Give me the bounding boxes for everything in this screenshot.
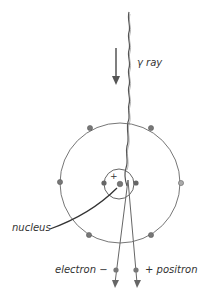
nucleus-label: nucleus (12, 222, 51, 233)
positron-arrowhead-icon (134, 280, 141, 288)
nucleus-pointer (50, 188, 117, 229)
electron-particle (113, 267, 118, 272)
electron-label: electron − (55, 264, 108, 275)
nucleus-charge-label: + (110, 171, 118, 181)
positron-label: + positron (145, 264, 198, 275)
pair-production-diagram (0, 0, 198, 293)
electron-track (115, 180, 128, 283)
electron-arrowhead-icon (112, 280, 119, 288)
direction-arrow-icon (112, 48, 120, 85)
positron-particle (133, 267, 138, 272)
nucleus-dot (117, 181, 123, 187)
gamma-ray-wave (125, 12, 130, 186)
gamma-ray-label: γ ray (137, 57, 162, 68)
